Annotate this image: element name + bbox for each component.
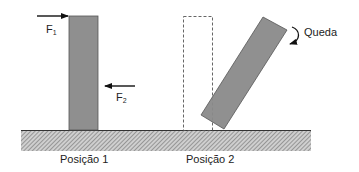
ground-hatched: [21, 131, 311, 151]
force-f1-label: F1: [46, 23, 57, 36]
tilted-block: [201, 17, 287, 129]
upright-block: [69, 16, 98, 130]
position-2-label: Posição 2: [186, 153, 234, 165]
force-f2-label: F2: [116, 91, 127, 104]
ground: [21, 131, 311, 152]
fall-rotation-arrow-icon: [290, 27, 299, 44]
position-1-label: Posição 1: [60, 153, 108, 165]
physics-diagram: F1 F2 Posição 1 Queda Posição 2: [0, 0, 359, 172]
fall-label: Queda: [304, 26, 338, 38]
